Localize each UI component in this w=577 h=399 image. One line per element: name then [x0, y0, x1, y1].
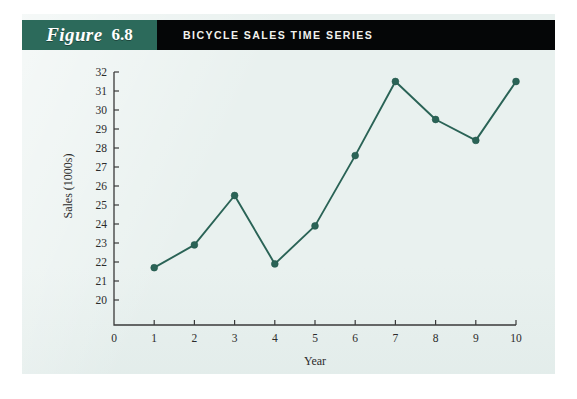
- figure-panel: [22, 14, 555, 374]
- figure-label: Figure: [46, 24, 102, 46]
- figure-header: Figure 6.8 BICYCLE SALES TIME SERIES: [22, 20, 555, 50]
- figure-title: BICYCLE SALES TIME SERIES: [183, 29, 373, 41]
- figure-number-block: Figure 6.8: [22, 20, 157, 50]
- figure-root: Figure 6.8 BICYCLE SALES TIME SERIES 012…: [0, 0, 577, 399]
- panel-texture: [22, 14, 555, 374]
- figure-number: 6.8: [112, 25, 133, 45]
- figure-title-block: BICYCLE SALES TIME SERIES: [157, 20, 555, 50]
